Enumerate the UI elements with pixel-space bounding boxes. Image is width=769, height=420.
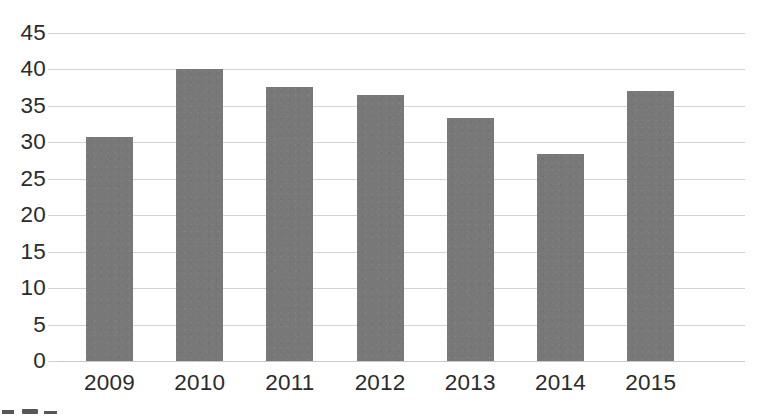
- bar: [86, 137, 133, 361]
- y-axis-tick-label: 40: [2, 58, 46, 81]
- bar: [357, 95, 404, 361]
- bar: [627, 91, 674, 361]
- y-axis-tick-mark: [48, 33, 58, 34]
- y-axis-tick-mark: [48, 215, 58, 216]
- bar: [266, 87, 313, 361]
- y-axis-tick-mark: [48, 179, 58, 180]
- bar: [176, 69, 223, 361]
- y-axis-tick-mark: [48, 252, 58, 253]
- y-axis-tick-mark: [48, 325, 58, 326]
- y-axis-tick-label: 5: [2, 313, 46, 336]
- y-axis-tick-label: 0: [2, 350, 46, 373]
- y-axis-tick-label: 10: [2, 277, 46, 300]
- y-axis-tick-mark: [48, 142, 58, 143]
- y-axis-tick-mark: [48, 361, 58, 362]
- bar: [537, 154, 584, 361]
- y-axis-tick-mark: [48, 69, 58, 70]
- gridline: [58, 69, 745, 70]
- y-axis-tick-label: 35: [2, 95, 46, 118]
- scan-artifact: [0, 404, 62, 418]
- y-axis-tick-mark: [48, 288, 58, 289]
- y-axis-tick-label: 20: [2, 204, 46, 227]
- y-axis-tick-mark: [48, 106, 58, 107]
- y-axis-tick-label: 25: [2, 168, 46, 191]
- bar: [447, 118, 494, 361]
- plot-area: [58, 33, 745, 361]
- gridline: [58, 33, 745, 34]
- y-axis-tick-label: 15: [2, 240, 46, 263]
- x-axis-tick-label: 2015: [591, 372, 711, 395]
- bar-chart: 45 40 35 30 25 20 15 10 5 0 200920102011…: [0, 0, 769, 420]
- y-axis-tick-label: 30: [2, 131, 46, 154]
- y-axis-tick-label: 45: [2, 22, 46, 45]
- axis-baseline: [58, 361, 745, 362]
